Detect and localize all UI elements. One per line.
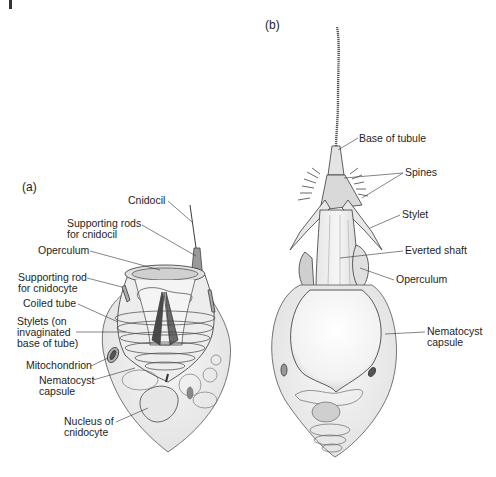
callout-coiled-tube: Coiled tube	[23, 298, 76, 309]
callout-operculum-b: Operculum	[396, 274, 447, 285]
callout-stylet: Stylet	[402, 209, 428, 220]
callout-supporting-rods-for-cnidocil: Supporting rods for cnidocil	[67, 218, 141, 240]
callout-spines: Spines	[405, 167, 437, 178]
callout-operculum-a: Operculum	[38, 245, 89, 256]
callout-everted-shaft: Everted shaft	[405, 245, 467, 256]
callout-mitochondrion: Mitochondrion	[26, 360, 92, 371]
panel-b-drawing	[272, 27, 397, 457]
callout-nematocyst-capsule-a: Nematocyst capsule	[39, 375, 94, 397]
everted-shaft	[316, 210, 360, 290]
base-of-tubule	[328, 146, 344, 175]
panel-label-b: (b)	[265, 18, 280, 32]
callout-nucleus-of-cnidocyte: Nucleus of cnidocyte	[64, 416, 114, 438]
panel-a-drawing	[102, 205, 230, 452]
callout-nematocyst-capsule-b: Nematocyst capsule	[427, 326, 482, 348]
callout-supporting-rod-for-cnidocyte: Supporting rod for cnidocyte	[18, 272, 87, 294]
callout-base-of-tubule: Base of tubule	[359, 133, 426, 144]
panel-label-a: (a)	[22, 180, 37, 194]
tubule-thread	[336, 27, 339, 148]
callout-stylets: Stylets (on invaginated base of tube)	[17, 316, 78, 349]
callout-cnidocil: Cnidocil	[128, 195, 165, 206]
